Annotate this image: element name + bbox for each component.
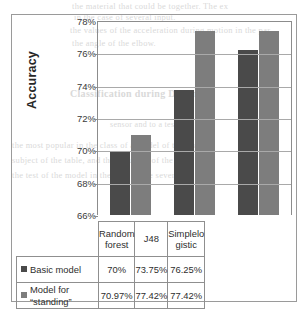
value-cell: 77.42% bbox=[135, 283, 168, 309]
ghost-line: the material that could be together. The… bbox=[72, 1, 228, 11]
y-axis-tick-label: 68% bbox=[56, 177, 96, 188]
table-row-categories: Random forestJ48Simplelo gistic bbox=[17, 222, 205, 257]
legend-cell: Basic model bbox=[17, 257, 99, 283]
category-header-cell: J48 bbox=[135, 222, 168, 257]
legend-label: Model for “standing” bbox=[30, 284, 72, 307]
bar bbox=[259, 31, 279, 215]
value-cell: 70.97% bbox=[99, 283, 135, 309]
gridline bbox=[98, 184, 291, 185]
gridline bbox=[98, 119, 291, 120]
category-header-cell: Random forest bbox=[99, 222, 135, 257]
plot-area bbox=[97, 21, 292, 215]
value-cell: 76.25% bbox=[168, 257, 205, 283]
value-cell: 73.75% bbox=[135, 257, 168, 283]
bar bbox=[131, 135, 151, 215]
gridline bbox=[98, 151, 291, 152]
legend-cell: Model for “standing” bbox=[17, 283, 99, 309]
y-axis-tick-labels: 78%76%74%72%70%68%66% bbox=[48, 15, 96, 221]
value-cell: 70% bbox=[99, 257, 135, 283]
bar bbox=[195, 31, 215, 215]
table-corner-blank bbox=[17, 222, 99, 257]
y-axis-title: Accuracy bbox=[25, 30, 39, 130]
y-axis-tick-label: 72% bbox=[56, 113, 96, 124]
gridline bbox=[98, 87, 291, 88]
legend-label: Basic model bbox=[30, 264, 81, 276]
data-table-body: Random forestJ48Simplelo gisticBasic mod… bbox=[17, 222, 205, 309]
y-axis-tick-label: 76% bbox=[56, 48, 96, 59]
y-axis-tickmark bbox=[94, 216, 98, 217]
y-axis-tick-label: 66% bbox=[56, 210, 96, 221]
y-axis-tickmark bbox=[94, 184, 98, 185]
y-axis-tick-label: 78% bbox=[56, 16, 96, 27]
y-axis-tickmark bbox=[94, 151, 98, 152]
table-row: Model for “standing”70.97%77.42%77.42% bbox=[17, 283, 205, 309]
legend-swatch-icon bbox=[21, 292, 27, 298]
category-header-cell: Simplelo gistic bbox=[168, 222, 205, 257]
value-cell: 77.42% bbox=[168, 283, 205, 309]
y-axis-tick-label: 70% bbox=[56, 145, 96, 156]
legend-swatch-icon bbox=[21, 266, 27, 272]
y-axis-tickmark bbox=[94, 87, 98, 88]
gridline bbox=[98, 54, 291, 55]
y-axis-tickmark bbox=[94, 119, 98, 120]
y-axis-tick-label: 74% bbox=[56, 80, 96, 91]
bar bbox=[238, 50, 258, 215]
table-row: Basic model70%73.75%76.25% bbox=[17, 257, 205, 283]
y-axis-tickmark bbox=[94, 54, 98, 55]
data-table: Random forestJ48Simplelo gisticBasic mod… bbox=[16, 221, 205, 309]
plot-region: Accuracy 78%76%74%72%70%68%66% bbox=[12, 15, 296, 221]
accuracy-bar-chart-figure: Accuracy 78%76%74%72%70%68%66% Random fo… bbox=[11, 14, 297, 302]
bar bbox=[174, 90, 194, 215]
